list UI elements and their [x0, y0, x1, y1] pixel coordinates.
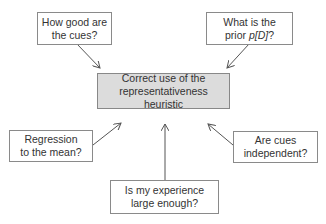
- prior-math: p[D]: [249, 29, 268, 41]
- arrow-cues-quality: [77, 44, 100, 68]
- node-cues-quality-label: How good are the cues?: [42, 16, 107, 42]
- node-independence-label: Are cues independent?: [244, 134, 308, 160]
- node-sample-size: Is my experience large enough?: [110, 180, 219, 214]
- node-prior: What is the prior p[D]?: [206, 12, 293, 45]
- node-sample-size-label: Is my experience large enough?: [125, 184, 204, 210]
- arrow-prior: [227, 44, 249, 68]
- arrow-regression: [93, 123, 121, 145]
- node-regression-label: Regression to the mean?: [20, 133, 81, 159]
- node-regression: Regression to the mean?: [9, 130, 93, 162]
- node-cues-quality: How good are the cues?: [37, 12, 112, 45]
- center-node: Correct use of the representativeness he…: [97, 73, 230, 109]
- node-prior-label: What is the prior p[D]?: [223, 16, 276, 42]
- center-node-label: Correct use of the representativeness he…: [119, 72, 208, 111]
- arrow-independence: [208, 124, 233, 145]
- node-independence: Are cues independent?: [233, 131, 318, 163]
